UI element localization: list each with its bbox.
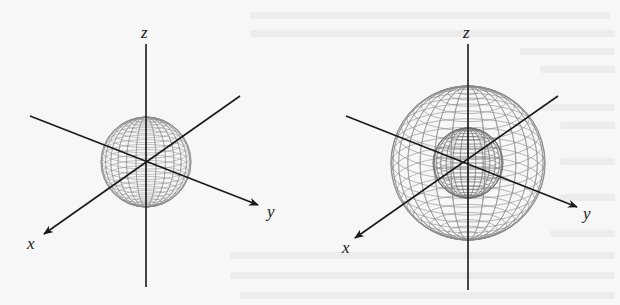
right-x-label: x <box>341 238 350 257</box>
right-y-label: y <box>581 204 591 223</box>
left-x-label: x <box>26 234 35 253</box>
left-z-label: z <box>140 23 148 42</box>
left-x-axis <box>44 96 240 234</box>
right-z-label: z <box>462 23 470 42</box>
right-x-axis <box>355 96 558 238</box>
right-figure: z x y <box>341 23 591 290</box>
left-figure: z x y <box>26 23 275 287</box>
figure-canvas: z x y z x y <box>0 0 620 305</box>
left-y-label: y <box>265 202 275 221</box>
